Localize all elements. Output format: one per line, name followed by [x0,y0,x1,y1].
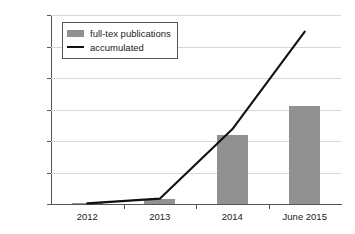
legend-item-accumulated: accumulated [67,40,171,54]
x-axis-tick-mark [124,205,125,209]
x-axis-tick-label: 2014 [196,211,269,222]
y-axis-tick-mark [47,204,51,205]
chart-container: 0100,000200,000300,000400,000500,000600,… [0,0,355,234]
legend-label-accumulated: accumulated [90,42,144,53]
legend-bar-swatch-icon [67,30,84,37]
legend-item-full-tex-publications: full-tex publications [67,26,171,40]
x-axis-tick-mark [196,205,197,209]
legend-label-full-tex-publications: full-tex publications [90,28,171,39]
x-axis-tick-label: 2013 [124,211,197,222]
x-axis-tick-label: June 2015 [269,211,342,222]
x-axis-tick-label: 2012 [51,211,124,222]
x-axis-tick-mark [269,205,270,209]
legend-line-swatch-icon [67,46,84,48]
chart-legend: full-tex publications accumulated [62,22,178,59]
